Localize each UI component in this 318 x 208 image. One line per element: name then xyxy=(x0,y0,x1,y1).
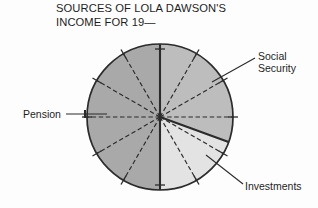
chart-page: SOURCES OF LOLA DAWSON'S INCOME FOR 19— xyxy=(0,0,318,208)
callout-label-investments: Investments xyxy=(245,180,302,192)
pie-chart xyxy=(0,0,318,208)
callout-label-social-security: Social Security xyxy=(258,50,296,74)
leader-social-security xyxy=(212,58,255,82)
callout-label-pension: Pension xyxy=(23,108,61,120)
